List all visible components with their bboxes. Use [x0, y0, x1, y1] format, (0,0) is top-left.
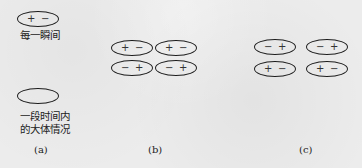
positive-charge: +	[27, 14, 35, 24]
dipole-ellipse: + −	[111, 40, 153, 56]
average-caption-line1: 一段时间内	[20, 110, 70, 123]
instant-caption: 每一瞬间	[20, 29, 60, 42]
dipole-ellipse: + −	[306, 61, 348, 77]
dipole-diagram: + − 每一瞬间 一段时间内 的大体情况 (a) + − + − − + − +…	[0, 0, 362, 168]
panel-label-b: (b)	[148, 144, 162, 155]
panel-label-c: (c)	[299, 144, 312, 155]
dipole-ellipse: + −	[155, 40, 197, 56]
negative-charge: −	[41, 14, 49, 24]
dipole-ellipse: − +	[306, 39, 348, 55]
average-neutral-ellipse	[17, 88, 59, 104]
dipole-ellipse: − +	[111, 60, 153, 76]
panel-label-a: (a)	[34, 144, 48, 155]
dipole-ellipse: + −	[254, 61, 296, 77]
dipole-ellipse: − +	[155, 60, 197, 76]
average-caption-line2: 的大体情况	[20, 123, 70, 136]
instant-dipole-ellipse: + −	[17, 11, 59, 27]
dipole-ellipse: − +	[254, 39, 296, 55]
